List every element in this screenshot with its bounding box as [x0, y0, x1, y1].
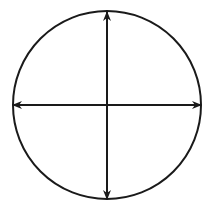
circle-axes-diagram — [0, 0, 212, 209]
diagram-canvas — [0, 0, 212, 209]
